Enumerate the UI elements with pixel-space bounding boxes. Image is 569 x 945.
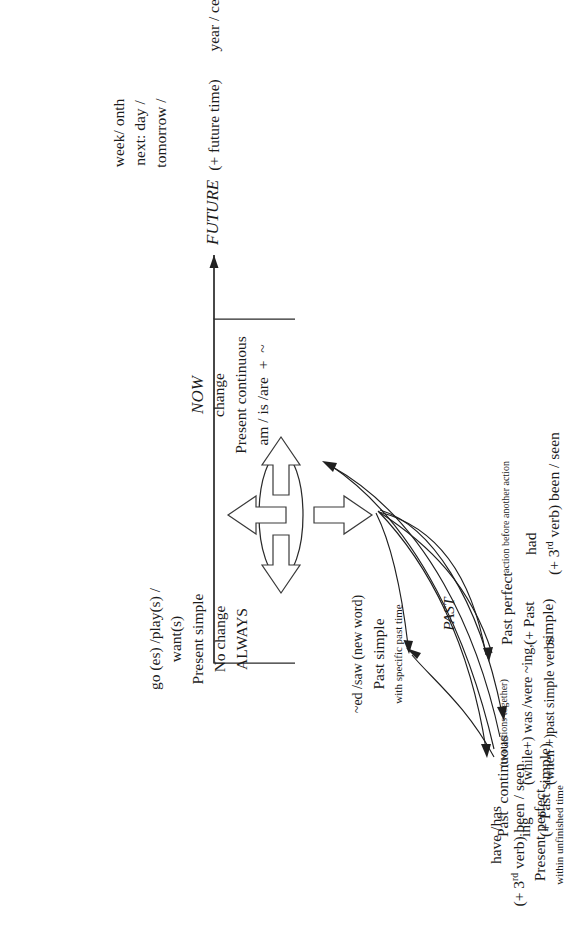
ppf-form2-sup: rd xyxy=(544,541,555,549)
future-axis-note-tail: year / century xyxy=(205,0,223,69)
past-perfect-form1: had xyxy=(522,533,540,555)
now-form: am / is /are + ~ xyxy=(254,305,272,485)
pp-forms2-sup: rd xyxy=(509,873,520,881)
tenses-diagram-page: FUTURE (+ future time) year / century to… xyxy=(0,0,569,945)
future-time-word-1: next: day / xyxy=(131,73,149,193)
present-simple-note1: No change xyxy=(211,549,229,729)
pp-forms2-a: (+ 3 xyxy=(510,881,527,907)
past-axis-label: PAST xyxy=(440,579,458,649)
past-continuous-note: (two actions together) xyxy=(498,679,510,767)
present-simple-note2: ALWAYS xyxy=(233,549,251,729)
past-simple-tense: Past simple xyxy=(370,559,388,749)
ppf-form2-a: (+ 3 xyxy=(545,549,562,575)
arrowhead-past-perfect xyxy=(483,647,493,662)
ppf-form2-b: verb) been / seen xyxy=(545,432,562,541)
past-perfect-tense: Past perfect xyxy=(498,572,516,645)
diagram-artwork xyxy=(0,0,569,945)
future-time-word-2: week/ onth xyxy=(110,73,128,193)
past-continuous-line2: ing xyxy=(516,817,534,837)
present-simple-forms: go (es) /play(s) / xyxy=(146,549,164,729)
present-simple-tense: Present simple xyxy=(189,549,207,729)
future-block-arrow xyxy=(228,496,286,534)
future-time-word-0: tomorrow / xyxy=(152,73,170,193)
past-simple-note: with specific past time xyxy=(392,559,405,749)
now-note: change xyxy=(210,315,228,475)
arrowhead-now-a xyxy=(322,461,337,472)
past-perfect-note: action before another action xyxy=(500,461,512,573)
past-continuous-form2: (when +)past simple verbs xyxy=(542,637,559,785)
now-axis-label: NOW xyxy=(188,315,208,475)
past-perfect-line2: (+ Past xyxy=(520,601,538,645)
past-block-arrow xyxy=(314,496,372,534)
past-continuous-form1: (while+) was /were ~ing, xyxy=(520,644,537,785)
future-axis-label: FUTURE xyxy=(203,185,223,245)
past-simple-forms: ~ed /saw (new word) xyxy=(350,559,367,749)
future-axis-note: (+ future time) xyxy=(205,65,223,185)
now-tense: Present continuous xyxy=(232,305,250,485)
present-simple-forms2: want(s) xyxy=(167,549,185,729)
past-perfect-form2: (+ 3rd verb) been / seen xyxy=(544,432,563,575)
